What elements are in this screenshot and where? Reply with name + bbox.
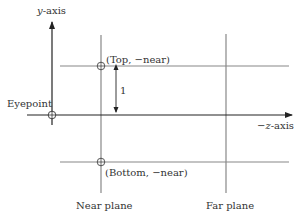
diagram-svg bbox=[0, 0, 303, 218]
z-axis-label: −z-axis bbox=[257, 121, 294, 131]
z-axis-suffix: -axis bbox=[271, 120, 294, 131]
top-point-label: (Top, −near) bbox=[106, 55, 170, 65]
unit-distance-label: 1 bbox=[120, 86, 126, 96]
near-plane-label: Near plane bbox=[76, 201, 133, 211]
eyepoint-label: Eyepoint bbox=[7, 99, 52, 109]
eyepoint-marker-icon bbox=[48, 111, 56, 119]
y-axis-suffix: -axis bbox=[43, 5, 66, 16]
bottom-point-label: (Bottom, −near) bbox=[105, 168, 188, 178]
top-marker-icon bbox=[97, 62, 105, 70]
far-plane-label: Far plane bbox=[206, 201, 254, 211]
diagram-canvas: y-axis (Top, −near) 1 Eyepoint −z-axis (… bbox=[0, 0, 303, 218]
bottom-marker-icon bbox=[97, 158, 105, 166]
y-axis-label: y-axis bbox=[37, 6, 66, 16]
